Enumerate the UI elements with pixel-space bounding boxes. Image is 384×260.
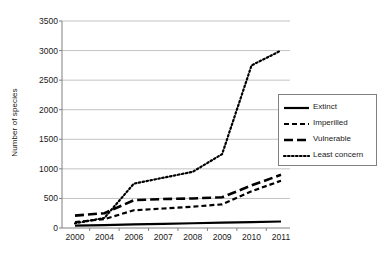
legend-item-imperilled[interactable]: Imperilled	[279, 114, 376, 130]
x-tick-label: 2010	[242, 232, 261, 242]
legend-label: Vulnerable	[313, 134, 351, 143]
axes	[59, 21, 290, 231]
legend-key-icon	[283, 100, 310, 112]
legend-label: Extinct	[313, 102, 337, 111]
x-tick-label: 2004	[95, 232, 114, 242]
series-line-extinct	[75, 221, 281, 225]
x-tick-label: 2009	[213, 232, 232, 242]
legend-key-icon	[283, 116, 310, 128]
x-tick-label: 2000	[66, 232, 85, 242]
legend-key-icon	[283, 148, 310, 160]
x-tick-label: 2006	[124, 232, 143, 242]
gridlines	[62, 21, 290, 198]
legend-item-least-concern[interactable]: Least concern	[279, 146, 376, 162]
legend-label: Least concern	[313, 150, 363, 159]
legend-key-icon	[283, 132, 310, 144]
series-line-least-concern	[75, 51, 281, 224]
data-series	[75, 51, 281, 226]
series-line-vulnerable	[75, 175, 281, 216]
x-axis-tick-labels: 20002004200620072008200920102011	[0, 232, 384, 252]
legend-item-extinct[interactable]: Extinct	[279, 98, 376, 114]
x-tick-label: 2011	[272, 232, 290, 242]
line-chart: Number of species 3500300025002000150010…	[0, 0, 384, 260]
legend-item-vulnerable[interactable]: Vulnerable	[279, 130, 376, 146]
x-tick-label: 2008	[183, 232, 202, 242]
x-tick-label: 2007	[154, 232, 173, 242]
chart-legend: ExtinctImperilledVulnerableLeast concern	[278, 94, 377, 166]
legend-label: Imperilled	[313, 118, 348, 127]
